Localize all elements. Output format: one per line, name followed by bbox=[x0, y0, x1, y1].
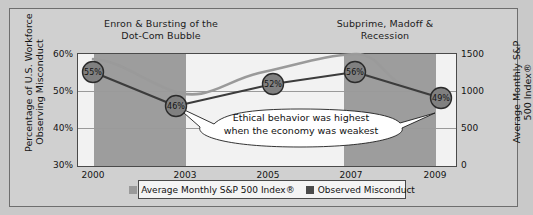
legend-item-sp500[interactable]: Average Monthly S&P 500 Index® bbox=[129, 185, 295, 195]
legend-label-sp500: Average Monthly S&P 500 Index® bbox=[141, 185, 295, 195]
chart-legend: Average Monthly S&P 500 Index® Observed … bbox=[138, 180, 406, 199]
legend-label-misconduct: Observed Misconduct bbox=[318, 185, 415, 195]
callout-bubble bbox=[176, 106, 435, 147]
data-label-2003: 46% bbox=[167, 102, 185, 111]
data-label-2005: 52% bbox=[264, 80, 282, 89]
data-label-2000: 55% bbox=[84, 68, 102, 77]
legend-swatch-icon-misconduct bbox=[306, 186, 314, 194]
y-axis-right-title-line2: 500 Index® bbox=[522, 32, 533, 152]
legend-swatch-icon-sp500 bbox=[129, 186, 137, 194]
legend-item-misconduct[interactable]: Observed Misconduct bbox=[306, 185, 415, 195]
chart-svg: 55% 46% 52% 56% 49% bbox=[10, 9, 519, 208]
data-label-2009: 49% bbox=[432, 94, 450, 103]
chart-figure: Enron & Bursting of the Dot-Com Bubble S… bbox=[9, 8, 518, 207]
data-point-markers bbox=[83, 62, 452, 117]
data-label-2007: 56% bbox=[346, 68, 364, 77]
